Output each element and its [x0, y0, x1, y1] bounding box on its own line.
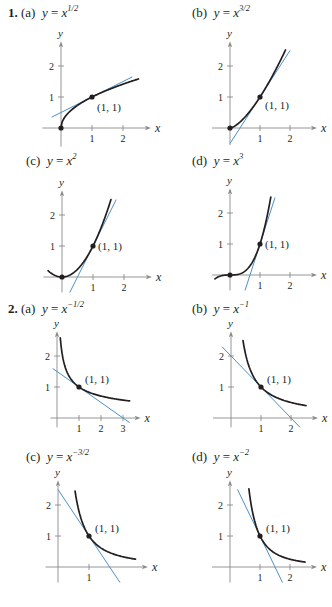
y-axis-label: y: [226, 174, 232, 186]
function-curve: [48, 200, 111, 277]
x-tick-label: 1: [258, 133, 263, 144]
y-tick-label: 2: [218, 61, 223, 72]
y-tick-label: 1: [219, 382, 224, 393]
panel-2d: (d) y = x−2xy1212(1, 1): [166, 444, 332, 592]
function-curve: [230, 50, 286, 128]
tangent-point-marker: [257, 241, 262, 246]
plot-area: xy112(1, 1): [0, 444, 166, 592]
y-axis-label: y: [57, 27, 63, 39]
tangent-point-marker: [86, 533, 91, 538]
plot-area: xy12312(1, 1): [0, 296, 166, 444]
function-curve: [60, 338, 129, 401]
x-tick-label: 2: [288, 572, 293, 583]
y-tick-label: 1: [218, 239, 223, 250]
y-axis-label: y: [226, 27, 232, 39]
y-axis-label: y: [53, 317, 59, 329]
point-label: (1, 1): [95, 522, 119, 535]
y-tick-label: 2: [45, 351, 50, 362]
x-tick-label: 1: [90, 133, 95, 144]
x-tick-label: 1: [91, 282, 96, 293]
x-axis-label: x: [151, 560, 158, 574]
y-axis-label: y: [58, 176, 64, 188]
x-tick-label: 1: [258, 280, 263, 291]
plot-area: xy1212(1, 1): [166, 444, 332, 592]
panel-2c: (c) y = x−3/2xy112(1, 1): [0, 444, 166, 592]
point-label: (1, 1): [97, 101, 121, 114]
panel-1d: (d) y = x3xy1212(1, 1): [166, 148, 332, 296]
y-tick-label: 2: [218, 500, 223, 511]
origin-point-marker: [227, 272, 232, 277]
panel-2b: (b) y = x−1xy1212(1, 1): [166, 296, 332, 444]
plot-area: xy1212(1, 1): [166, 296, 332, 444]
y-tick-label: 2: [49, 61, 54, 72]
point-label: (1, 1): [98, 240, 122, 253]
plot-area: xy1212(1, 1): [0, 148, 166, 296]
y-tick-label: 1: [218, 531, 223, 542]
x-axis-label: x: [144, 411, 151, 425]
tangent-point-marker: [257, 533, 262, 538]
panel-2a: 2. (a) y = x−1/2xy12312(1, 1): [0, 296, 166, 444]
axes: [212, 484, 313, 582]
point-label: (1, 1): [85, 373, 109, 386]
point-label: (1, 1): [265, 99, 289, 112]
tangent-point-marker: [90, 243, 95, 248]
y-axis-label: y: [227, 317, 233, 329]
axes: [43, 194, 147, 292]
x-tick-label: 2: [122, 282, 127, 293]
x-tick-label: 2: [121, 133, 126, 144]
origin-point-marker: [227, 125, 232, 130]
y-tick-label: 2: [50, 210, 55, 221]
axes: [212, 45, 313, 145]
y-tick-label: 2: [218, 208, 223, 219]
x-axis-label: x: [321, 411, 328, 425]
x-tick-label: 1: [77, 423, 82, 434]
y-tick-label: 2: [46, 500, 51, 511]
x-tick-label: 2: [288, 133, 293, 144]
y-tick-label: 1: [50, 241, 55, 252]
plot-area: xy1212(1, 1): [0, 0, 166, 148]
plot-area: xy1212(1, 1): [166, 0, 332, 148]
x-tick-label: 1: [87, 572, 92, 583]
x-tick-label: 1: [258, 572, 263, 583]
y-tick-label: 1: [46, 531, 51, 542]
y-axis-label: y: [54, 466, 60, 478]
y-tick-label: 2: [219, 351, 224, 362]
origin-point-marker: [58, 125, 63, 130]
x-tick-label: 2: [289, 423, 294, 434]
point-label: (1, 1): [265, 238, 289, 251]
tangent-point-marker: [76, 384, 81, 389]
y-axis-label: y: [226, 466, 232, 478]
x-axis-label: x: [320, 268, 327, 282]
x-axis-label: x: [320, 121, 327, 135]
plot-area: xy1212(1, 1): [166, 148, 332, 296]
x-axis-label: x: [155, 270, 162, 284]
x-tick-label: 2: [288, 280, 293, 291]
x-axis-label: x: [154, 121, 161, 135]
point-label: (1, 1): [267, 373, 291, 386]
panel-1a: 1. (a) y = x1/2xy1212(1, 1): [0, 0, 166, 148]
panel-1b: (b) y = x3/2xy1212(1, 1): [166, 0, 332, 148]
axes: [213, 335, 314, 427]
y-tick-label: 1: [49, 92, 54, 103]
tangent-point-marker: [258, 384, 263, 389]
tangent-point-marker: [257, 94, 262, 99]
y-tick-label: 1: [218, 92, 223, 103]
function-curve: [215, 197, 271, 279]
panel-1c: (c) y = x2xy1212(1, 1): [0, 148, 166, 296]
x-tick-label: 3: [121, 423, 126, 434]
origin-point-marker: [59, 274, 64, 279]
x-tick-label: 2: [99, 423, 104, 434]
y-tick-label: 1: [45, 382, 50, 393]
x-axis-label: x: [320, 560, 327, 574]
point-label: (1, 1): [266, 522, 290, 535]
tangent-point-marker: [89, 94, 94, 99]
x-tick-label: 1: [259, 423, 264, 434]
